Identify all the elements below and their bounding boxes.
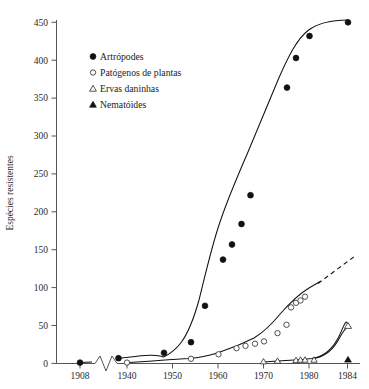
y-tick-label: 0 xyxy=(43,359,48,369)
y-tick-450: 450 xyxy=(34,18,57,28)
data-point xyxy=(302,294,307,299)
x-tick-label: 1908 xyxy=(71,371,90,381)
data-point xyxy=(275,330,280,335)
x-tick-1908: 1908 xyxy=(71,364,90,382)
series-ervas-daninhas xyxy=(260,322,351,364)
series-ervas-daninhas-line-tail xyxy=(312,326,348,358)
data-point xyxy=(307,33,313,39)
y-tick-label: 50 xyxy=(39,321,49,331)
y-tick-label: 300 xyxy=(34,131,49,141)
data-point xyxy=(124,360,129,365)
x-tick-label: 1970 xyxy=(254,371,273,381)
x-tick-1970: 1970 xyxy=(254,364,273,382)
y-tick-200: 200 xyxy=(34,207,57,217)
x-tick-1960: 1960 xyxy=(209,364,228,382)
series-patogenos-de-plantas xyxy=(124,256,355,365)
x-tick-label: 1950 xyxy=(163,371,182,381)
x-tick-1950: 1950 xyxy=(163,364,182,382)
data-point xyxy=(345,356,352,362)
data-point xyxy=(345,19,351,25)
y-tick-250: 250 xyxy=(34,169,57,179)
chart-canvas: Espécies resistentes 450 400 350 300 250… xyxy=(0,0,369,389)
legend-item-ervas-daninhas: Ervas daninhas xyxy=(90,83,160,94)
y-tick-label: 250 xyxy=(34,169,49,179)
data-point xyxy=(284,322,289,327)
x-tick-1984: 1984 xyxy=(338,364,357,382)
data-point xyxy=(188,339,194,345)
y-axis-ticks: 450 400 350 300 250 200 150 100 50 0 xyxy=(34,18,57,369)
y-tick-100: 100 xyxy=(34,283,57,293)
data-point xyxy=(202,303,208,309)
data-point xyxy=(216,352,221,357)
y-tick-label: 150 xyxy=(34,245,49,255)
series-ervas-daninhas-line xyxy=(264,322,349,362)
data-point xyxy=(260,359,266,364)
series-nematoides xyxy=(345,356,352,362)
legend-item-artropodes: Artrópodes xyxy=(90,51,144,62)
x-axis-break-icon xyxy=(95,356,117,371)
x-tick-1940: 1940 xyxy=(118,364,137,382)
data-point xyxy=(252,341,257,346)
y-tick-label: 350 xyxy=(34,93,49,103)
data-point xyxy=(77,360,83,366)
x-tick-label: 1960 xyxy=(209,371,228,381)
y-tick-300: 300 xyxy=(34,131,57,141)
data-point xyxy=(298,298,303,303)
open-circle-icon xyxy=(90,70,95,75)
y-tick-150: 150 xyxy=(34,245,57,255)
x-tick-label: 1980 xyxy=(300,371,319,381)
resistant-species-chart: Espécies resistentes 450 400 350 300 250… xyxy=(0,0,369,389)
data-point xyxy=(239,221,245,227)
y-tick-350: 350 xyxy=(34,93,57,103)
data-point xyxy=(161,350,167,356)
y-tick-0: 0 xyxy=(43,359,56,369)
x-axis-ticks: 1908 1940 1950 1960 1970 1980 1984 xyxy=(71,364,358,382)
series-patogenos-extrapolation-line xyxy=(318,256,355,284)
data-point xyxy=(188,356,193,361)
legend-label: Ervas daninhas xyxy=(100,83,159,94)
data-point xyxy=(248,192,254,198)
data-point xyxy=(229,242,235,248)
data-point xyxy=(293,55,299,61)
y-axis-title: Espécies resistentes xyxy=(5,155,15,230)
x-tick-1980: 1980 xyxy=(300,364,319,382)
data-point xyxy=(261,339,266,344)
y-tick-400: 400 xyxy=(34,56,57,66)
legend-label: Artrópodes xyxy=(100,51,144,62)
y-tick-label: 100 xyxy=(34,283,49,293)
y-tick-label: 400 xyxy=(34,56,49,66)
data-point xyxy=(284,85,290,91)
y-tick-label: 450 xyxy=(34,18,49,28)
legend-label: Patógenos de plantas xyxy=(100,67,181,78)
legend-item-nematoides: Nematóides xyxy=(90,99,147,110)
x-tick-label: 1940 xyxy=(118,371,137,381)
filled-triangle-icon xyxy=(90,101,97,107)
data-point xyxy=(288,305,293,310)
legend: Artrópodes Patógenos de plantas Ervas da… xyxy=(90,51,182,110)
legend-item-patogenos-de-plantas: Patógenos de plantas xyxy=(90,67,181,78)
filled-circle-icon xyxy=(90,54,96,60)
data-point xyxy=(220,257,226,263)
data-point xyxy=(234,346,239,351)
x-tick-label: 1984 xyxy=(338,371,357,381)
legend-label: Nematóides xyxy=(100,99,147,110)
y-tick-label: 200 xyxy=(34,207,49,217)
data-point xyxy=(243,343,248,348)
series-patogenos-line xyxy=(127,281,321,363)
data-point xyxy=(116,355,122,361)
open-triangle-icon xyxy=(90,85,97,91)
y-tick-50: 50 xyxy=(39,321,57,331)
